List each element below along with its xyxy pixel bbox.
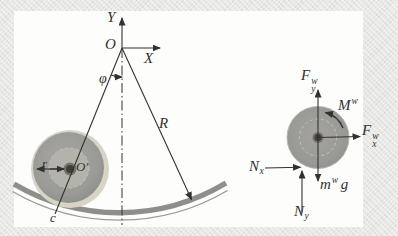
label-phi: φ [99, 72, 107, 86]
label-R: R [159, 116, 168, 131]
label-origin: O [105, 37, 116, 52]
mechanics-diagram [0, 0, 398, 236]
label-contact-c: c [50, 211, 56, 224]
label-Ny: Ny [294, 204, 309, 222]
label-Fx: Fwx [362, 123, 379, 148]
label-Fy: Fwy [301, 68, 318, 93]
figure-canvas: Y O X φ R r O′ c Fwy Mw Fwx Nx mwg Ny [0, 0, 398, 236]
radius-R-line [122, 48, 192, 200]
label-y-axis: Y [107, 10, 115, 25]
normal-Nx-arrow [265, 167, 301, 168]
label-r: r [42, 157, 47, 170]
label-weight: mwg [320, 176, 348, 192]
label-wheel-center: O′ [76, 160, 88, 173]
label-moment: Mw [338, 97, 358, 113]
phi-angle-arc [111, 75, 122, 77]
label-x-axis: X [144, 51, 153, 66]
label-Nx: Nx [249, 159, 264, 177]
